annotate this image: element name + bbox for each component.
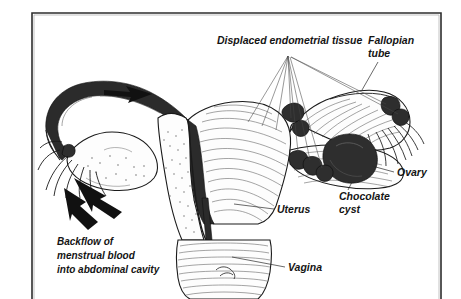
label-text: Ovary xyxy=(397,166,428,178)
label-text-line2: menstrual blood xyxy=(57,250,136,261)
label-text: Vagina xyxy=(288,261,322,273)
label-displaced-endometrial-tissue: Displaced endometrial tissue xyxy=(217,34,362,46)
label-text-line2: tube xyxy=(368,47,390,59)
label-text-line1: Chocolate xyxy=(339,190,390,202)
label-text-line1: Backflow of xyxy=(57,236,115,247)
uterus-body xyxy=(158,101,291,240)
vagina xyxy=(177,240,272,299)
endometriosis-diagram: Displaced endometrial tissue Fallopian t… xyxy=(0,0,461,299)
label-text: Uterus xyxy=(277,203,310,215)
label-text-line3: into abdominal cavity xyxy=(57,264,160,275)
label-backflow: Backflow of menstrual blood into abdomin… xyxy=(57,236,160,275)
label-text: Displaced endometrial tissue xyxy=(217,34,362,46)
figure-canvas: Displaced endometrial tissue Fallopian t… xyxy=(0,0,461,299)
label-text-line1: Fallopian xyxy=(368,34,414,46)
label-text-line2: cyst xyxy=(339,203,361,215)
label-fallopian-tube: Fallopian tube xyxy=(362,34,414,90)
